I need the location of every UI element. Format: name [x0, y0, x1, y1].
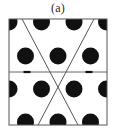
unit-cell-diagram [0, 0, 116, 129]
atom-circle [33, 81, 50, 98]
atom-circle [82, 48, 99, 65]
arrow-marker-icon [86, 71, 93, 73]
atom-circle [66, 14, 83, 31]
atom-circle [50, 48, 67, 65]
atom-circle [66, 81, 83, 98]
atom-circle [33, 14, 50, 31]
figure-root: (a) [0, 0, 116, 129]
arrow-marker-icon [24, 71, 31, 73]
atom-circle [17, 48, 34, 65]
